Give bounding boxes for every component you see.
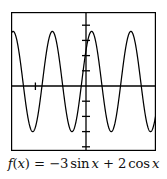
caption-coefficient-1: −3 — [49, 156, 68, 171]
caption-equals: = — [34, 156, 45, 171]
caption-plus: + — [103, 156, 114, 171]
caption-close-paren: ) — [25, 156, 30, 171]
caption-sin-label: sin — [70, 156, 89, 171]
caption-sin-arg: x — [91, 156, 98, 171]
caption-arg: x — [17, 156, 24, 171]
caption-cos-arg: x — [152, 156, 159, 171]
function-plot-figure: f(x) = −3sinx + 2cosx — [0, 0, 167, 179]
plot-background — [11, 12, 156, 151]
plot-area — [11, 12, 156, 151]
plot-svg — [11, 12, 156, 151]
caption-cos-label: cos — [128, 156, 150, 171]
figure-caption: f(x) = −3sinx + 2cosx — [0, 156, 167, 171]
caption-coefficient-2: 2 — [118, 156, 126, 171]
